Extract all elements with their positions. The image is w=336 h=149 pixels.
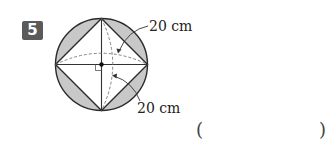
answer-close-paren: ) xyxy=(319,119,326,140)
answer-blank[interactable] xyxy=(208,119,314,141)
answer-box[interactable]: ( ) xyxy=(196,119,326,141)
answer-open-paren: ( xyxy=(196,119,203,140)
center-point xyxy=(99,62,103,66)
top-dimension-label: 20 cm xyxy=(149,18,192,34)
bottom-dimension-label: 20 cm xyxy=(137,100,180,116)
